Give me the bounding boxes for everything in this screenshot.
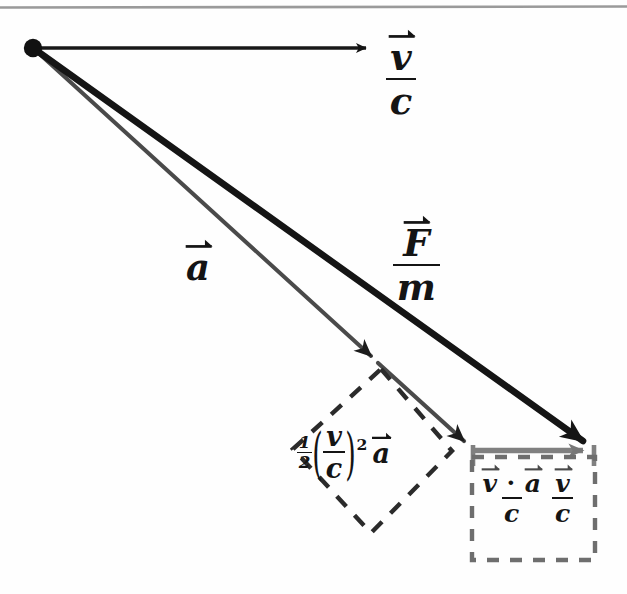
a-vector-shaft: [33, 48, 371, 356]
top-divider-rule: [0, 7, 627, 8]
fraction-v-over-c: v c: [552, 470, 572, 526]
exponent-two: 2: [357, 437, 368, 453]
vector-accent-v: v: [390, 38, 412, 76]
glyph-a: a: [525, 469, 541, 498]
fraction-v-dot-a-over-c: v · a c: [480, 470, 543, 526]
fraction-numerator: 1: [297, 434, 312, 452]
vector-origin-dot: [24, 39, 42, 57]
vector-accent-a: a: [525, 470, 541, 496]
F-over-m-vector-shaft: [33, 48, 583, 441]
half-vc-squared-a-vector-shaft: [378, 363, 464, 441]
vector-accent-a: a: [372, 439, 390, 467]
paren-close: ): [345, 426, 356, 481]
fraction-numerator: F: [399, 224, 433, 264]
label-half-vc-squared-a: 1 2 ( v c ) 2 a: [297, 423, 390, 482]
vector-accent-v: v: [483, 470, 498, 496]
fraction-numerator: v: [387, 38, 416, 78]
vector-accent-F: F: [403, 224, 429, 262]
fraction-numerator: v · a: [480, 470, 543, 497]
fraction-denominator: 2: [297, 452, 312, 471]
label-F-over-m: F m: [393, 224, 440, 306]
fraction-one-half: 1 2: [297, 434, 312, 470]
glyph-a: a: [186, 245, 210, 289]
glyph-a: a: [372, 438, 390, 469]
glyph-v: v: [390, 35, 412, 79]
label-a-vector: a: [186, 248, 210, 286]
fraction-v-over-c-inner: v c: [323, 423, 345, 482]
fraction-F-over-m: F m: [393, 224, 440, 306]
fraction-numerator: v: [323, 423, 344, 451]
fraction-v-over-c: v c: [386, 38, 416, 120]
vector-accent-v: v: [555, 470, 570, 496]
glyph-v: v: [483, 469, 498, 498]
glyph-v: v: [555, 469, 570, 498]
fraction-denominator: c: [552, 497, 572, 526]
label-v-over-c: v c: [386, 38, 416, 120]
fraction-denominator: c: [323, 451, 345, 482]
paren-open: (: [312, 426, 323, 481]
fraction-numerator: v: [553, 470, 573, 497]
fraction-denominator: c: [386, 78, 416, 120]
glyph-F: F: [403, 221, 429, 265]
vector-accent-a: a: [186, 248, 210, 286]
dot-product-operator: ·: [506, 470, 516, 495]
vector-diagram-figure: v c F m: [0, 0, 627, 594]
label-projection-terms: v · a c: [480, 470, 573, 526]
fraction-denominator: m: [393, 264, 440, 306]
fraction-denominator: c: [502, 497, 522, 526]
